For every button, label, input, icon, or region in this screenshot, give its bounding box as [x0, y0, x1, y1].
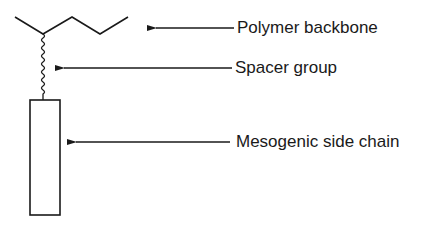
spacer-label: Spacer group — [235, 59, 337, 76]
side-chain-label: Mesogenic side chain — [236, 133, 399, 150]
backbone-label: Polymer backbone — [237, 19, 378, 36]
spacer-wavy-line — [42, 34, 45, 100]
polymer-backbone-zigzag — [15, 17, 128, 34]
mesogenic-side-chain-rect — [30, 100, 60, 215]
